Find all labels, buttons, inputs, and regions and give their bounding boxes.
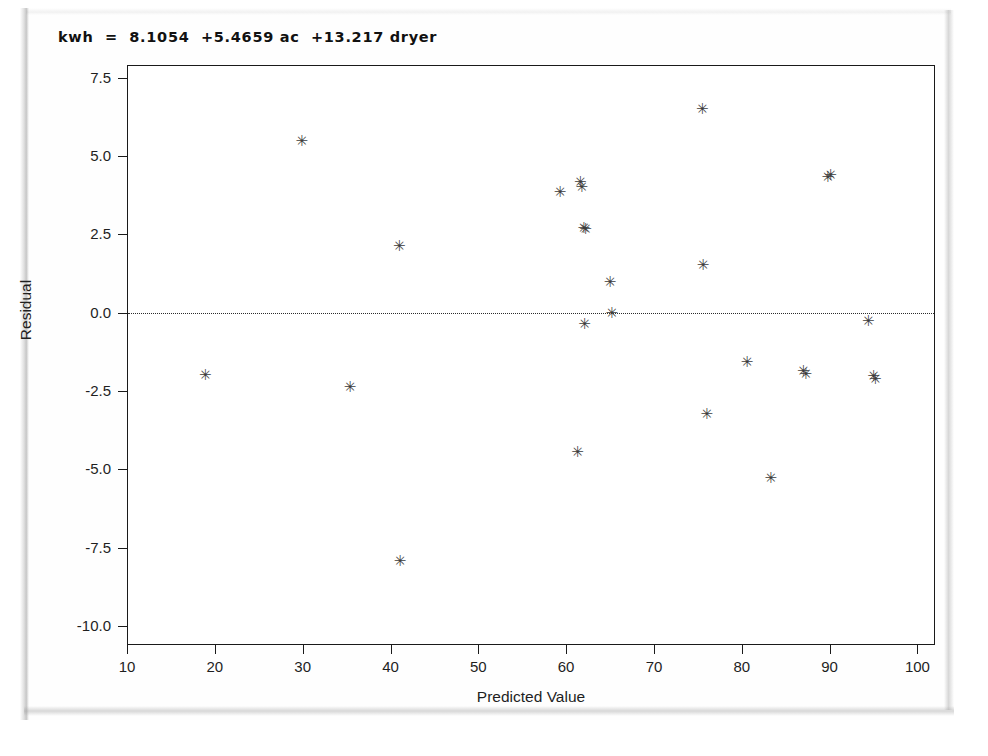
x-tick-label: 30 [273, 658, 333, 675]
x-tick-mark [391, 645, 392, 654]
x-tick-mark [215, 645, 216, 654]
y-tick-mark [118, 548, 127, 549]
data-point-marker: ✳ [823, 168, 838, 183]
data-point-marker: ✳ [294, 134, 309, 149]
plot-area-frame [127, 65, 935, 645]
x-tick-mark [303, 645, 304, 654]
data-point-marker: ✳ [553, 185, 568, 200]
x-tick-label: 40 [361, 658, 421, 675]
data-point-marker: ✳ [868, 372, 883, 387]
residual-scatter-plot: kwh = 8.1054 +5.4659 ac +13.217 dryer 7.… [0, 0, 988, 756]
x-tick-label: 80 [712, 658, 772, 675]
x-tick-label: 70 [624, 658, 684, 675]
data-point-marker: ✳ [740, 355, 755, 370]
x-tick-label: 20 [185, 658, 245, 675]
y-tick-mark [118, 626, 127, 627]
x-tick-label: 60 [536, 658, 596, 675]
y-tick-label: -5.0 [41, 460, 111, 477]
x-tick-label: 100 [887, 658, 947, 675]
y-tick-label: 7.5 [41, 69, 111, 86]
y-tick-mark [118, 234, 127, 235]
data-point-marker: ✳ [861, 314, 876, 329]
x-tick-mark [566, 645, 567, 654]
y-tick-label: 0.0 [41, 304, 111, 321]
data-point-marker: ✳ [574, 180, 589, 195]
data-point-marker: ✳ [392, 239, 407, 254]
data-point-marker: ✳ [695, 102, 710, 117]
y-tick-label: -2.5 [41, 382, 111, 399]
y-tick-mark [118, 391, 127, 392]
x-tick-mark [478, 645, 479, 654]
x-tick-label: 90 [800, 658, 860, 675]
data-point-marker: ✳ [696, 258, 711, 273]
y-tick-mark [118, 469, 127, 470]
data-point-marker: ✳ [578, 222, 593, 237]
y-tick-label: -10.0 [41, 617, 111, 634]
data-point-marker: ✳ [699, 407, 714, 422]
zero-reference-line [128, 313, 934, 314]
y-tick-label: 2.5 [41, 225, 111, 242]
data-point-marker: ✳ [604, 306, 619, 321]
data-point-marker: ✳ [603, 275, 618, 290]
data-point-marker: ✳ [570, 445, 585, 460]
x-tick-mark [654, 645, 655, 654]
x-tick-label: 10 [97, 658, 157, 675]
data-point-marker: ✳ [763, 471, 778, 486]
x-tick-mark [742, 645, 743, 654]
y-axis-title: Residual [17, 280, 35, 340]
data-point-marker: ✳ [393, 554, 408, 569]
x-tick-mark [830, 645, 831, 654]
x-tick-mark [917, 645, 918, 654]
x-axis-title: Predicted Value [477, 688, 585, 706]
x-tick-mark [127, 645, 128, 654]
y-tick-label: 5.0 [41, 147, 111, 164]
data-point-marker: ✳ [798, 367, 813, 382]
y-tick-label: -7.5 [41, 539, 111, 556]
data-point-marker: ✳ [198, 368, 213, 383]
data-point-marker: ✳ [577, 317, 592, 332]
y-tick-mark [118, 313, 127, 314]
y-tick-mark [118, 156, 127, 157]
chart-title: kwh = 8.1054 +5.4659 ac +13.217 dryer [58, 29, 437, 45]
y-tick-mark [118, 78, 127, 79]
data-point-marker: ✳ [343, 380, 358, 395]
x-tick-label: 50 [448, 658, 508, 675]
